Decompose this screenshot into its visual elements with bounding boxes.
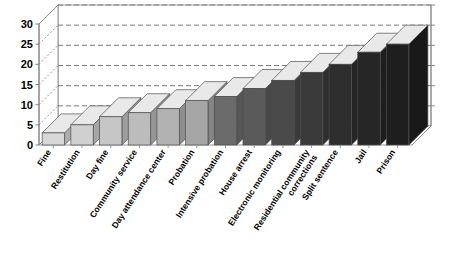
y-axis-tick-label: 30 <box>21 18 33 30</box>
y-axis-tick-label: 5 <box>27 119 33 131</box>
y-axis-tick-label: 10 <box>21 99 33 111</box>
y-axis-tick-label: 20 <box>21 58 33 70</box>
bar-chart-3d: 051015202530 FineRestitutionDay fineComm… <box>0 0 449 258</box>
y-axis-tick-label: 15 <box>21 79 33 91</box>
y-axis-tick-label: 25 <box>21 38 33 50</box>
chart-canvas: 051015202530 FineRestitutionDay fineComm… <box>0 0 449 258</box>
bar <box>386 25 427 145</box>
y-axis-tick-label: 0 <box>27 139 33 151</box>
